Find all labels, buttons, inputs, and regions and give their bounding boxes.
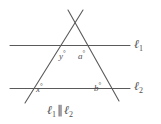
angle-label-b: b° bbox=[94, 82, 101, 93]
parallel-caption: ℓ1∥ℓ2 bbox=[47, 104, 73, 119]
angle-label-x: x° bbox=[36, 83, 43, 94]
transversal-line-left bbox=[25, 10, 83, 103]
line-label-l2: ℓ2 bbox=[134, 80, 143, 95]
angle-label-y: y° bbox=[59, 50, 66, 61]
angle-label-a: a° bbox=[78, 50, 85, 61]
figure-canvas bbox=[0, 0, 161, 124]
line-label-l1: ℓ1 bbox=[134, 38, 143, 53]
geometry-figure: y° a° x° b° ℓ1 ℓ2 ℓ1∥ℓ2 bbox=[0, 0, 161, 124]
